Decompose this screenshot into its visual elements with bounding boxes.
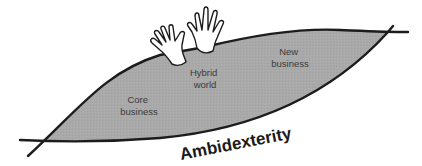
ambidexterity-diagram: Core business Hybrid world New business … (0, 0, 422, 166)
hybrid-world-label: Hybrid world (190, 67, 220, 90)
